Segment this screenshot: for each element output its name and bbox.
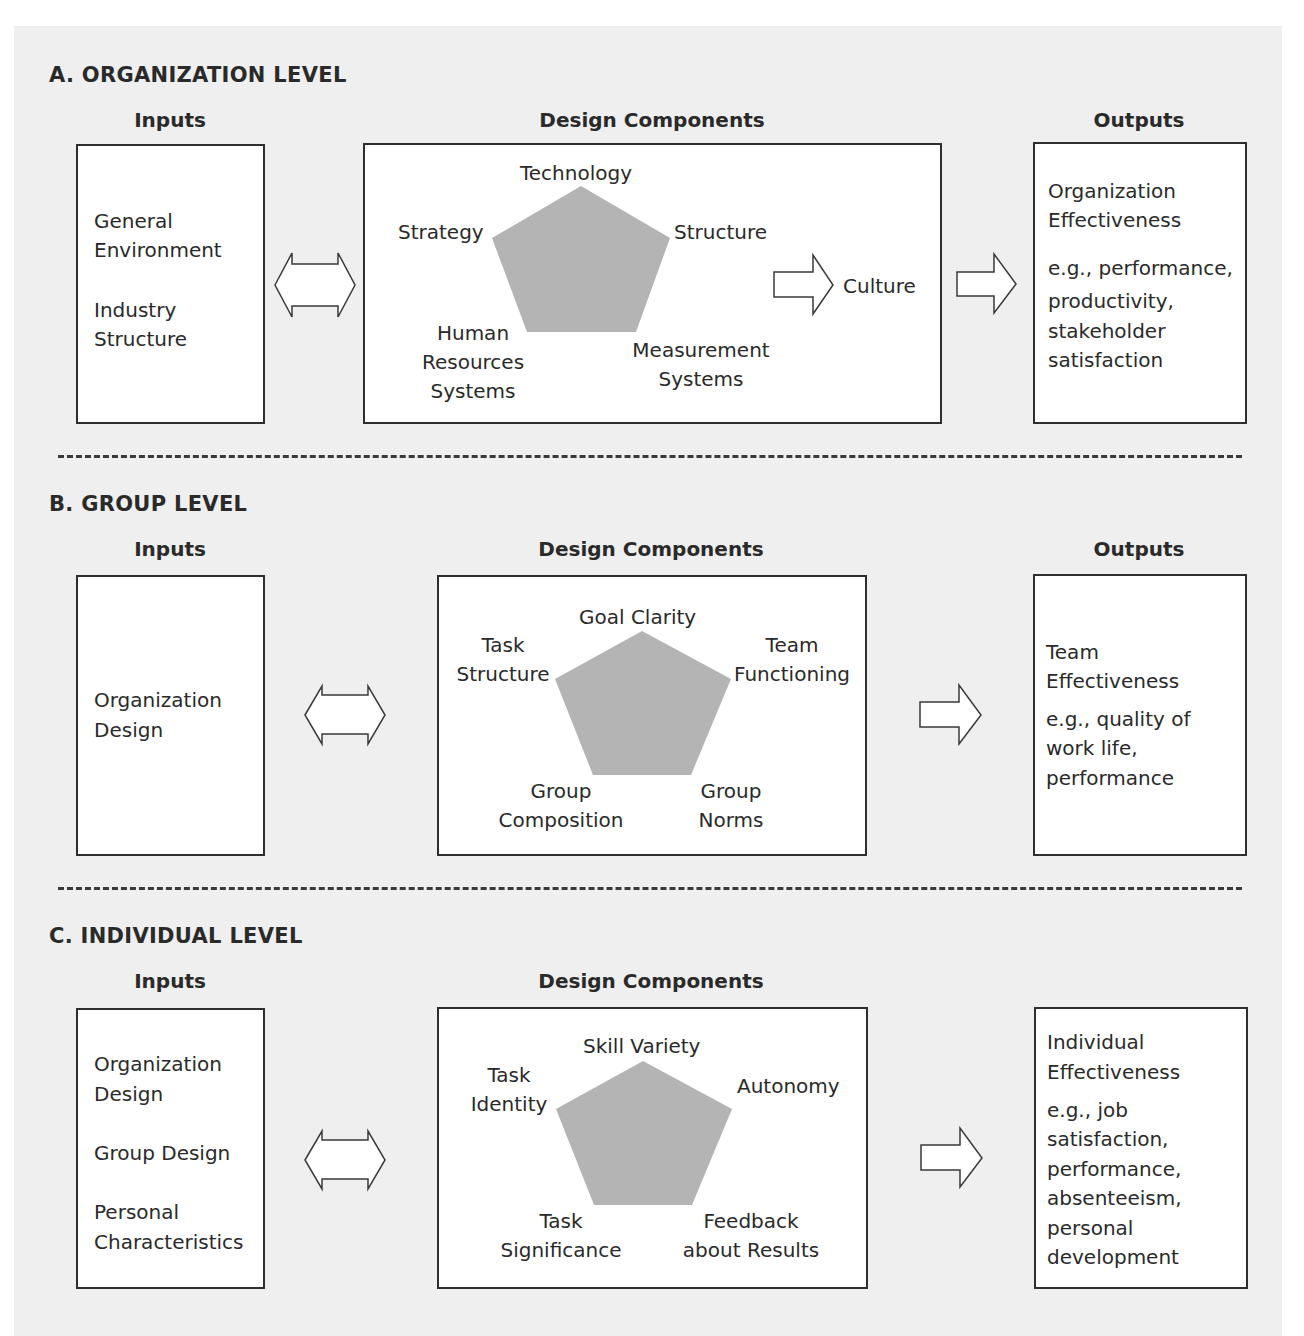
component-group-composition: Group Composition: [491, 777, 631, 835]
inputs-header: Inputs: [76, 108, 264, 132]
output-item: productivity,: [1048, 287, 1174, 316]
input-item: Personal: [94, 1198, 179, 1227]
label-line: Task: [469, 1061, 549, 1090]
inputs-box: Organization Design Group Design Persona…: [76, 1008, 265, 1289]
label-line: Norms: [691, 806, 771, 835]
inputs-box: Organization Design: [76, 575, 265, 856]
input-item: Structure: [94, 325, 187, 354]
component-structure: Structure: [674, 218, 767, 247]
component-strategy: Strategy: [398, 218, 484, 247]
output-item: Organization: [1048, 177, 1176, 206]
section-title: C. INDIVIDUAL LEVEL: [49, 924, 303, 948]
label-line: Team: [733, 631, 851, 660]
arrow-right-icon: [920, 1127, 984, 1189]
output-item: development: [1047, 1243, 1179, 1272]
output-item: performance: [1046, 764, 1174, 793]
outputs-box: Organization Effectiveness e.g., perform…: [1033, 142, 1247, 424]
output-item: satisfaction,: [1047, 1125, 1168, 1154]
design-components-header: Design Components: [437, 537, 865, 561]
label-line: Systems: [630, 365, 772, 394]
component-team-functioning: Team Functioning: [733, 631, 851, 689]
component-task-significance: Task Significance: [499, 1207, 623, 1265]
label-line: Structure: [453, 660, 553, 689]
outputs-header: Outputs: [1033, 108, 1245, 132]
output-item: Individual: [1047, 1028, 1144, 1057]
output-item: stakeholder: [1048, 317, 1165, 346]
output-item: Effectiveness: [1047, 1058, 1180, 1087]
component-autonomy: Autonomy: [737, 1072, 840, 1101]
output-item: e.g., quality of: [1046, 705, 1190, 734]
design-components-box: Technology Strategy Structure Human Reso…: [363, 143, 942, 424]
output-item: Effectiveness: [1048, 206, 1181, 235]
input-item: Industry: [94, 296, 176, 325]
component-task-structure: Task Structure: [453, 631, 553, 689]
input-item: Design: [94, 1080, 163, 1109]
arrow-right-icon: [773, 254, 835, 316]
component-goal-clarity: Goal Clarity: [579, 603, 696, 632]
label-line: Group: [691, 777, 771, 806]
component-feedback-about-results: Feedback about Results: [679, 1207, 823, 1265]
double-arrow-icon: [304, 1129, 386, 1191]
label-line: Significance: [499, 1236, 623, 1265]
label-line: Task: [453, 631, 553, 660]
design-components-box: Goal Clarity Task Structure Team Functio…: [437, 575, 867, 856]
label-line: Systems: [417, 377, 529, 406]
input-item: Environment: [94, 236, 222, 265]
label-line: Measurement: [630, 336, 772, 365]
inputs-header: Inputs: [76, 537, 264, 561]
input-item: Characteristics: [94, 1228, 244, 1257]
input-item: General: [94, 207, 173, 236]
component-technology: Technology: [520, 159, 632, 188]
input-item: Organization: [94, 686, 222, 715]
input-item: Group Design: [94, 1139, 230, 1168]
label-line: Group: [491, 777, 631, 806]
outputs-box: Individual Effectiveness e.g., job satis…: [1034, 1007, 1248, 1289]
inputs-header: Inputs: [76, 969, 264, 993]
label-line: Resources: [417, 348, 529, 377]
label-line: Task: [499, 1207, 623, 1236]
label-line: Identity: [469, 1090, 549, 1119]
section-title: B. GROUP LEVEL: [49, 492, 247, 516]
outputs-box: Team Effectiveness e.g., quality of work…: [1033, 574, 1247, 856]
pentagon-shape: [491, 186, 671, 336]
double-arrow-icon: [304, 684, 386, 746]
input-item: Design: [94, 716, 163, 745]
pentagon-shape: [554, 631, 732, 777]
pentagon-shape: [555, 1061, 733, 1207]
component-task-identity: Task Identity: [469, 1061, 549, 1119]
output-item: absenteeism,: [1047, 1184, 1182, 1213]
output-item: work life,: [1046, 734, 1138, 763]
section-title: A. ORGANIZATION LEVEL: [49, 63, 347, 87]
arrow-right-icon: [919, 684, 983, 746]
label-line: Human: [417, 319, 529, 348]
label-line: Composition: [491, 806, 631, 835]
label-line: Feedback: [679, 1207, 823, 1236]
input-item: Organization: [94, 1050, 222, 1079]
component-group-norms: Group Norms: [691, 777, 771, 835]
output-item: e.g., job: [1047, 1096, 1128, 1125]
section-divider: [58, 455, 1242, 458]
output-item: e.g., performance,: [1048, 254, 1233, 283]
design-components-header: Design Components: [364, 108, 940, 132]
inputs-box: General Environment Industry Structure: [76, 144, 265, 424]
output-item: Team: [1046, 638, 1099, 667]
output-item: personal: [1047, 1214, 1133, 1243]
component-hr-systems: Human Resources Systems: [417, 319, 529, 406]
culture-label: Culture: [843, 272, 916, 301]
output-item: Effectiveness: [1046, 667, 1179, 696]
output-item: satisfaction: [1048, 346, 1163, 375]
component-measurement-systems: Measurement Systems: [630, 336, 772, 394]
output-item: performance,: [1047, 1155, 1181, 1184]
section-divider: [58, 887, 1242, 890]
double-arrow-icon: [274, 251, 356, 319]
arrow-right-icon: [956, 253, 1018, 315]
design-components-box: Skill Variety Task Identity Autonomy Tas…: [437, 1007, 868, 1289]
label-line: Functioning: [733, 660, 851, 689]
outputs-header: Outputs: [1033, 537, 1245, 561]
design-components-header: Design Components: [437, 969, 865, 993]
component-skill-variety: Skill Variety: [583, 1032, 700, 1061]
label-line: about Results: [679, 1236, 823, 1265]
